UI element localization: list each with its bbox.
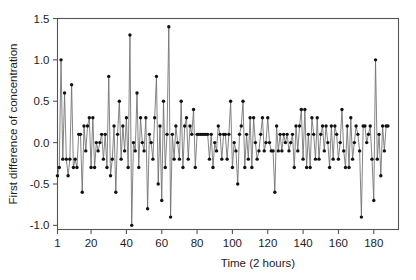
data-point <box>236 182 239 185</box>
data-point <box>105 166 108 169</box>
data-point <box>386 124 389 127</box>
data-point <box>224 133 227 136</box>
data-point <box>340 108 343 111</box>
data-point <box>144 116 147 119</box>
data-point <box>257 149 260 152</box>
data-point <box>285 133 288 136</box>
data-point <box>365 141 368 144</box>
plot-frame <box>58 19 399 230</box>
data-point <box>100 133 103 136</box>
data-point <box>61 157 64 160</box>
data-point <box>261 116 264 119</box>
data-point <box>183 124 186 127</box>
x-tick-label: 180 <box>364 237 383 249</box>
y-tick-label: -1.0 <box>30 219 50 231</box>
data-point <box>128 33 131 36</box>
data-point <box>208 157 211 160</box>
data-point <box>326 141 329 144</box>
data-point <box>289 141 292 144</box>
data-point <box>135 91 138 94</box>
data-point <box>240 124 243 127</box>
data-point <box>287 149 290 152</box>
data-point <box>158 124 161 127</box>
data-point <box>210 133 213 136</box>
data-point <box>65 157 68 160</box>
data-point <box>81 191 84 194</box>
data-point <box>137 166 140 169</box>
data-point <box>291 133 294 136</box>
data-point <box>300 108 303 111</box>
data-point <box>229 100 232 103</box>
data-point <box>278 133 281 136</box>
data-point <box>134 149 137 152</box>
data-point <box>123 149 126 152</box>
data-point <box>220 157 223 160</box>
y-tick-label: 0.5 <box>34 95 50 107</box>
data-point <box>319 133 322 136</box>
data-point <box>330 124 333 127</box>
data-point <box>259 133 262 136</box>
data-point <box>190 133 193 136</box>
data-point <box>63 91 66 94</box>
data-point <box>342 149 345 152</box>
data-point <box>58 166 61 169</box>
data-point <box>241 100 244 103</box>
data-point <box>360 215 363 218</box>
data-point <box>172 157 175 160</box>
data-point <box>247 157 250 160</box>
data-point <box>363 124 366 127</box>
data-point <box>187 157 190 160</box>
data-point <box>370 157 373 160</box>
data-point <box>73 157 76 160</box>
data-point <box>264 141 267 144</box>
data-point <box>349 116 352 119</box>
data-point <box>293 166 296 169</box>
data-point <box>367 133 370 136</box>
data-point <box>59 58 62 61</box>
data-point <box>263 149 266 152</box>
data-point <box>268 141 271 144</box>
data-point <box>225 157 228 160</box>
data-point <box>280 149 283 152</box>
data-point <box>70 83 73 86</box>
chart-canvas: -1.0-0.50.00.51.01.5 1204060801001201401… <box>0 0 416 280</box>
data-series <box>56 25 390 227</box>
data-point <box>181 166 184 169</box>
data-point <box>148 133 151 136</box>
data-point <box>142 149 145 152</box>
data-point <box>188 124 191 127</box>
data-point <box>381 124 384 127</box>
data-point <box>176 141 179 144</box>
data-point <box>376 157 379 160</box>
data-point <box>96 149 99 152</box>
data-point <box>323 149 326 152</box>
data-point <box>231 166 234 169</box>
data-point <box>114 191 117 194</box>
data-point <box>277 149 280 152</box>
data-point <box>162 100 165 103</box>
data-point <box>102 157 105 160</box>
data-point <box>109 174 112 177</box>
data-point <box>232 141 235 144</box>
data-point <box>338 141 341 144</box>
data-point <box>218 133 221 136</box>
data-point <box>238 133 241 136</box>
data-point <box>213 141 216 144</box>
x-tick-label: 60 <box>155 237 168 249</box>
data-point <box>82 124 85 127</box>
x-tick-label: 160 <box>329 237 348 249</box>
data-point <box>347 166 350 169</box>
data-point <box>321 124 324 127</box>
plot-frame-rect <box>58 19 399 230</box>
data-point <box>167 25 170 28</box>
data-point <box>308 166 311 169</box>
data-point <box>66 174 69 177</box>
data-point <box>215 149 218 152</box>
data-point <box>266 116 269 119</box>
data-point <box>165 133 168 136</box>
data-point <box>178 157 181 160</box>
data-point <box>125 116 128 119</box>
data-point <box>353 141 356 144</box>
data-point <box>139 116 142 119</box>
data-point <box>383 149 386 152</box>
